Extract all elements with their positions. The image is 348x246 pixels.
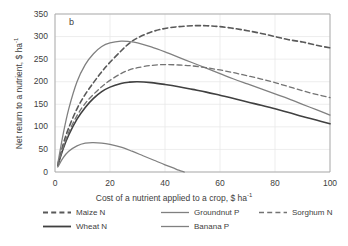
x-tick-label: 100 — [315, 179, 345, 188]
legend-label: Maize N — [76, 209, 105, 217]
x-axis-title: Cost of a nutrient applied to a crop, $ … — [0, 192, 348, 203]
legend-item-banana-p[interactable]: Banana P — [160, 222, 229, 231]
legend-label: Wheat N — [76, 223, 107, 231]
legend-item-groundnut-p[interactable]: Groundnut P — [160, 208, 239, 217]
legend-swatch — [42, 208, 72, 217]
chart-legend: Maize NWheat NGroundnut PBanana PSorghum… — [0, 208, 348, 246]
x-axis-title-text: Cost of a nutrient applied to a crop, $ … — [96, 193, 253, 203]
legend-label: Groundnut P — [194, 209, 239, 217]
x-tick-label: 60 — [205, 179, 235, 188]
legend-swatch — [42, 222, 72, 231]
legend-label: Banana P — [194, 223, 229, 231]
legend-item-wheat-n[interactable]: Wheat N — [42, 222, 107, 231]
x-tick-label: 0 — [40, 179, 70, 188]
x-tick-label: 40 — [150, 179, 180, 188]
legend-swatch — [160, 222, 190, 231]
chart-figure: Net return to a nutrient, $ ha-1 0501001… — [0, 0, 348, 246]
x-tick-label: 20 — [95, 179, 125, 188]
legend-swatch — [160, 208, 190, 217]
legend-item-sorghum-n[interactable]: Sorghum N — [258, 208, 332, 217]
legend-label: Sorghum N — [292, 209, 332, 217]
legend-item-maize-n[interactable]: Maize N — [42, 208, 105, 217]
x-tick-label: 80 — [260, 179, 290, 188]
legend-swatch — [258, 208, 288, 217]
